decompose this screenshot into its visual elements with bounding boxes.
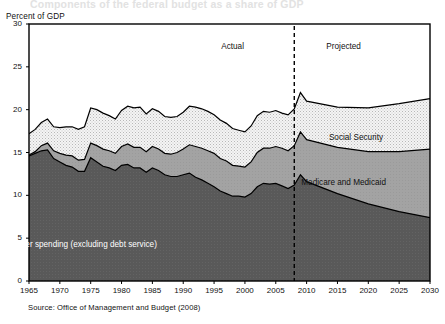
series-label-social-security: Social Security [329,133,383,142]
y-tick-label: 25 [4,62,22,71]
annotation-projected: Projected [326,42,361,51]
chart-figure: Components of the federal budget as a sh… [0,0,445,324]
annotation-actual: Actual [221,42,244,51]
series-label-medicare-medicaid: Medicare and Medicaid [301,178,386,187]
series-label-other-spending: Other spending (excluding debt service) [12,240,157,249]
source-note: Source: Office of Management and Budget … [28,303,200,312]
y-tick-label: 0 [4,276,22,285]
y-tick-label: 10 [4,190,22,199]
y-tick-label: 30 [4,19,22,28]
y-tick-label: 15 [4,148,22,157]
x-tick-label: 2030 [410,286,445,295]
y-tick-label: 20 [4,105,22,114]
